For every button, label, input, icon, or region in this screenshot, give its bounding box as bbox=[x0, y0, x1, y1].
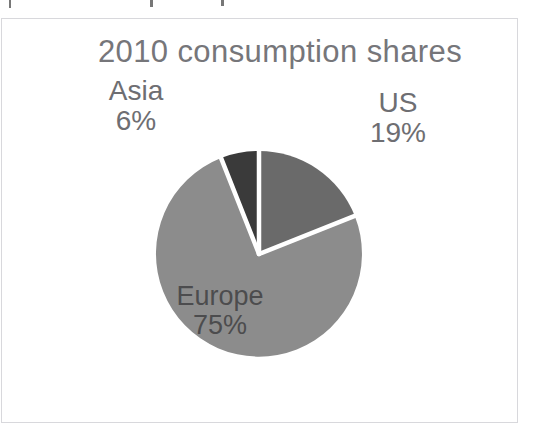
pie-label-asia-name: Asia bbox=[76, 76, 196, 106]
pie-label-europe: Europe 75% bbox=[140, 282, 300, 340]
pie-label-us-value: 19% bbox=[338, 118, 458, 148]
pie-label-europe-name: Europe bbox=[140, 282, 300, 311]
figure-page: 2010 consumption shares Asia 6% US 19% bbox=[0, 0, 541, 435]
pie-label-asia: Asia 6% bbox=[76, 76, 196, 136]
pie-chart: 2010 consumption shares Asia 6% US 19% bbox=[0, 0, 541, 435]
pie-label-europe-value: 75% bbox=[140, 311, 300, 340]
pie-label-us: US 19% bbox=[338, 88, 458, 148]
pie-label-us-name: US bbox=[338, 88, 458, 118]
pie-label-asia-value: 6% bbox=[76, 106, 196, 136]
chart-title: 2010 consumption shares bbox=[40, 34, 520, 70]
